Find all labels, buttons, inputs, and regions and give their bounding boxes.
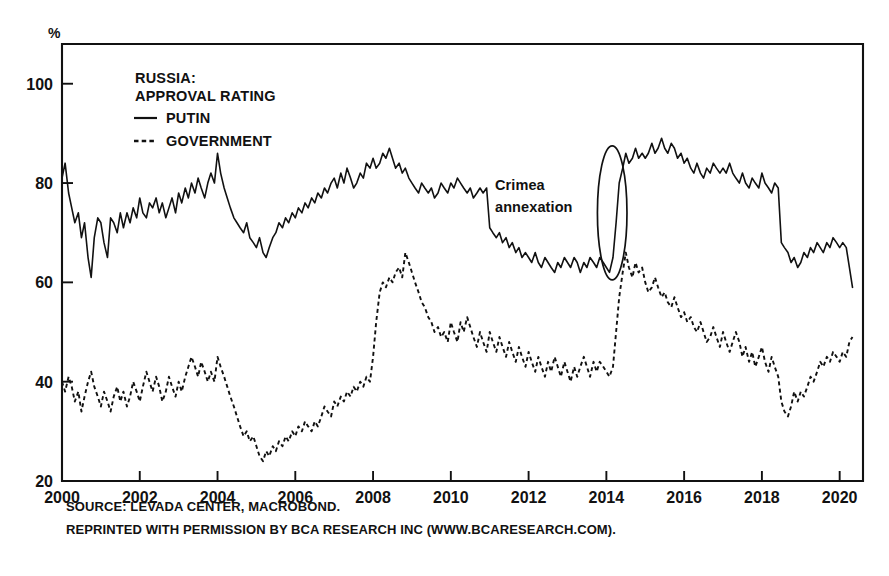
series-line-putin: [62, 138, 853, 287]
y-tick-label: 60: [35, 274, 53, 291]
y-tick-label: 100: [26, 76, 53, 93]
x-tick-label: 2008: [355, 489, 391, 506]
y-axis-ticks: 20406080100: [26, 76, 73, 490]
x-tick-label: 2016: [666, 489, 702, 506]
x-tick-label: 2010: [433, 489, 469, 506]
series-line-government: [62, 253, 853, 462]
footnote-source: SOURCE: LEVADA CENTER, MACROBOND.: [66, 499, 340, 514]
legend-label-government: GOVERNMENT: [166, 133, 272, 149]
chart-title-line1: RUSSIA:: [135, 70, 196, 86]
y-tick-label: 20: [35, 473, 53, 490]
x-tick-label: 2018: [744, 489, 780, 506]
chart-figure: % 20406080100 20002002200420062008201020…: [0, 0, 889, 576]
chart-title-line2: APPROVAL RATING: [135, 88, 276, 104]
annotation-crimea-line1: Crimea: [495, 177, 546, 193]
footnote-permission: REPRINTED WITH PERMISSION BY BCA RESEARC…: [66, 522, 616, 537]
y-tick-label: 80: [35, 175, 53, 192]
y-axis-unit-label: %: [48, 25, 61, 41]
legend-label-putin: PUTIN: [166, 110, 211, 126]
annotation-crimea-line2: annexation: [495, 199, 573, 215]
x-tick-label: 2012: [511, 489, 547, 506]
x-tick-label: 2014: [589, 489, 625, 506]
y-tick-label: 40: [35, 374, 53, 391]
approval-rating-chart: % 20406080100 20002002200420062008201020…: [0, 0, 889, 576]
x-tick-label: 2020: [822, 489, 858, 506]
